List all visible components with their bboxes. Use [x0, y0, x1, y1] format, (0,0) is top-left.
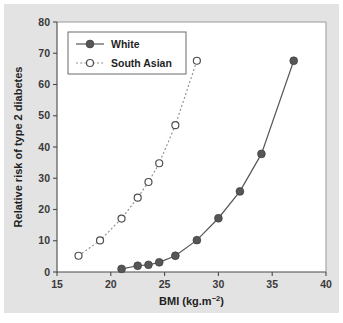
diabetes-risk-line-chart: 01020304050607080152025303540BMI (kg.m−2…: [0, 0, 343, 323]
data-point[interactable]: [236, 187, 244, 195]
y-axis-tick-label: 60: [38, 78, 50, 90]
data-point[interactable]: [75, 252, 82, 259]
data-point[interactable]: [258, 150, 266, 158]
y-axis-tick-label: 50: [38, 109, 50, 121]
data-point[interactable]: [193, 57, 200, 64]
y-axis-tick-label: 80: [38, 16, 50, 28]
data-point[interactable]: [145, 261, 153, 269]
y-axis-tick-label: 30: [38, 172, 50, 184]
x-axis-tick-label: 15: [51, 278, 63, 290]
chart-legend: WhiteSouth Asian: [68, 32, 186, 74]
x-axis-tick-label: 30: [213, 278, 225, 290]
data-point[interactable]: [156, 160, 163, 167]
x-axis-tick-label: 25: [159, 278, 171, 290]
data-point[interactable]: [97, 237, 104, 244]
y-axis-tick-label: 40: [38, 141, 50, 153]
data-point[interactable]: [134, 262, 142, 270]
data-point[interactable]: [145, 179, 152, 186]
data-point[interactable]: [171, 252, 179, 260]
y-axis-tick-label: 0: [44, 266, 50, 278]
data-point[interactable]: [134, 194, 141, 201]
legend-label-white: White: [111, 38, 140, 50]
legend-marker: [86, 40, 94, 48]
x-axis-title: BMI (kg.m−2): [159, 294, 224, 307]
x-axis-tick-label: 20: [105, 278, 117, 290]
y-axis-tick-label: 10: [38, 234, 50, 246]
x-axis-tick-label: 40: [320, 278, 332, 290]
data-point[interactable]: [155, 258, 163, 266]
y-axis-tick-label: 70: [38, 47, 50, 59]
y-axis-title: Relative risk of type 2 diabetes: [12, 67, 24, 228]
data-point[interactable]: [193, 236, 201, 244]
x-axis-tick-label: 35: [266, 278, 278, 290]
data-point[interactable]: [290, 57, 298, 65]
figure-container: 01020304050607080152025303540BMI (kg.m−2…: [0, 0, 343, 323]
data-point[interactable]: [118, 265, 126, 273]
legend-label-south-asian: South Asian: [111, 57, 172, 69]
data-point[interactable]: [118, 215, 125, 222]
y-axis-tick-label: 20: [38, 203, 50, 215]
legend-marker: [87, 60, 94, 67]
data-point[interactable]: [172, 122, 179, 129]
data-point[interactable]: [215, 214, 223, 222]
